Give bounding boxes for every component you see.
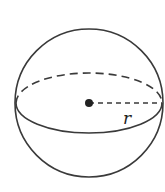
radius-label: r [123, 108, 131, 128]
back-equator-dashed [16, 73, 162, 103]
front-equator-solid [16, 103, 162, 133]
sphere-diagram: r [0, 0, 165, 192]
center-point [85, 99, 93, 107]
sphere-figure [0, 0, 165, 192]
